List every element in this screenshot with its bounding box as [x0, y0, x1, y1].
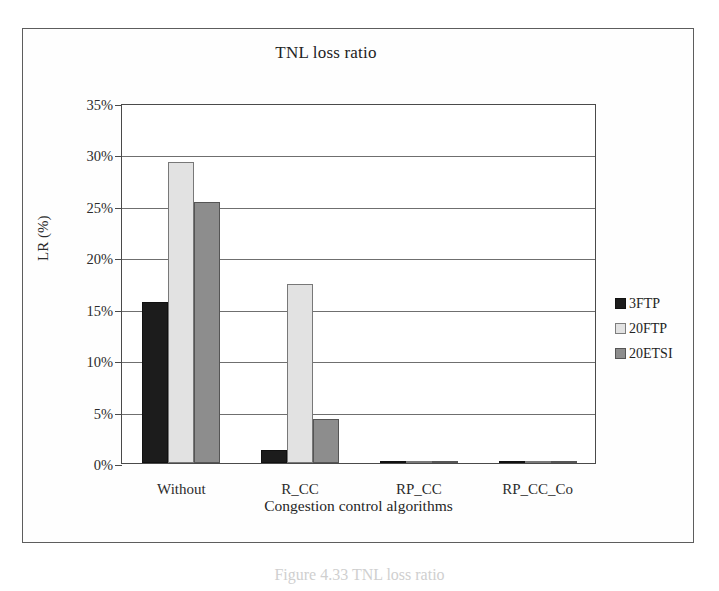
- y-axis-title: LR (%): [35, 216, 52, 261]
- bar-20ftp-rp_cc_co[interactable]: [525, 461, 551, 463]
- legend-item-20ftp[interactable]: 20FTP: [615, 316, 693, 341]
- bar-3ftp-without[interactable]: [142, 302, 168, 463]
- legend-label: 20FTP: [629, 321, 667, 337]
- chart-title: TNL loss ratio: [23, 43, 693, 63]
- bar-20etsi-without[interactable]: [194, 202, 220, 463]
- legend-swatch-3ftp: [615, 298, 626, 309]
- bar-20etsi-rp_cc_co[interactable]: [551, 461, 577, 463]
- x-axis-label-rp_cc_co: RP_CC_Co: [473, 481, 603, 498]
- x-axis-title: Congestion control algorithms: [121, 497, 596, 515]
- legend-label: 20ETSI: [629, 346, 673, 362]
- bar-20ftp-without[interactable]: [168, 162, 194, 463]
- y-axis-tick-label: 0%: [94, 457, 113, 474]
- legend-label: 3FTP: [629, 296, 660, 312]
- y-axis-tick: [115, 311, 122, 312]
- y-axis-tick-label: 15%: [86, 302, 113, 319]
- bar-3ftp-rp_cc_co[interactable]: [499, 461, 525, 463]
- bar-group: [122, 105, 241, 463]
- bar-20etsi-r_cc[interactable]: [313, 419, 339, 463]
- y-axis-tick: [115, 259, 122, 260]
- chart-title-text: TNL loss ratio: [275, 43, 376, 62]
- y-axis-tick-label: 25%: [86, 199, 113, 216]
- bar-3ftp-r_cc[interactable]: [261, 450, 287, 463]
- x-axis-label-rp_cc: RP_CC: [354, 481, 484, 498]
- bar-3ftp-rp_cc[interactable]: [380, 461, 406, 463]
- bar-20ftp-rp_cc[interactable]: [406, 461, 432, 463]
- legend-item-3ftp[interactable]: 3FTP: [615, 291, 693, 316]
- y-axis-tick: [115, 362, 122, 363]
- legend-swatch-20etsi: [615, 348, 626, 359]
- figure-caption: Figure 4.33 TNL loss ratio: [0, 566, 719, 591]
- y-axis-tick: [115, 465, 122, 466]
- y-axis-tick-label: 10%: [86, 354, 113, 371]
- bar-20ftp-r_cc[interactable]: [287, 284, 313, 463]
- x-axis-label-without: Without: [116, 481, 246, 498]
- x-axis-label-r_cc: R_CC: [235, 481, 365, 498]
- bar-group: [360, 105, 479, 463]
- y-axis-tick-label: 20%: [86, 251, 113, 268]
- bar-20etsi-rp_cc[interactable]: [432, 461, 458, 463]
- y-axis-tick-label: 5%: [94, 405, 113, 422]
- figure-frame: TNL loss ratio LR (%) 0%5%10%15%20%25%30…: [22, 28, 694, 543]
- legend-item-20etsi[interactable]: 20ETSI: [615, 341, 693, 366]
- y-axis-tick: [115, 414, 122, 415]
- y-axis-tick: [115, 105, 122, 106]
- chart-legend: 3FTP20FTP20ETSI: [615, 291, 693, 366]
- y-axis-tick: [115, 208, 122, 209]
- y-axis-tick-label: 30%: [86, 148, 113, 165]
- legend-swatch-20ftp: [615, 323, 626, 334]
- bar-group: [241, 105, 360, 463]
- bar-group: [478, 105, 597, 463]
- plot-area: 0%5%10%15%20%25%30%35% WithoutR_CCRP_CCR…: [121, 104, 596, 464]
- y-axis-tick: [115, 156, 122, 157]
- y-axis-tick-label: 35%: [86, 97, 113, 114]
